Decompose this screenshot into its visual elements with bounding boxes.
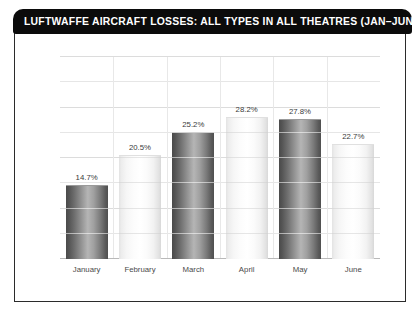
bar-gridline-minor xyxy=(226,132,268,133)
bar-value-label: 27.8% xyxy=(289,107,311,116)
bar-value-label: 14.7% xyxy=(76,173,98,182)
gridline-vertical xyxy=(113,57,114,259)
bar-gridline-minor xyxy=(172,233,214,234)
bar-gridline-minor xyxy=(172,182,214,183)
bar-gridline xyxy=(172,157,214,158)
bar-gridline-minor xyxy=(332,233,374,234)
bar-gridline-minor xyxy=(119,182,161,183)
bar-gridline-minor xyxy=(279,132,321,133)
bar: 27.8%May xyxy=(279,119,321,259)
bar-gridline-minor xyxy=(119,233,161,234)
bar-gridline-minor xyxy=(226,182,268,183)
x-axis-category-label: June xyxy=(345,265,362,274)
x-axis-category-label: February xyxy=(124,265,155,274)
bar: 25.2%March xyxy=(172,132,214,259)
bar-value-label: 28.2% xyxy=(236,105,258,114)
x-axis-category-label: May xyxy=(293,265,308,274)
bar-value-label: 20.5% xyxy=(129,143,151,152)
bar-gridline-minor xyxy=(332,182,374,183)
bar-gridline-minor xyxy=(66,233,108,234)
bar: 22.7%June xyxy=(332,144,374,259)
bar: 14.7%January xyxy=(66,185,108,259)
bar-gridline xyxy=(279,157,321,158)
bar-gridline xyxy=(332,208,374,209)
bar-gridline xyxy=(332,157,374,158)
bar-gridline-minor xyxy=(279,182,321,183)
bar-gridline xyxy=(119,157,161,158)
x-axis-category-label: April xyxy=(239,265,255,274)
bar-gridline xyxy=(279,208,321,209)
gridline-vertical xyxy=(327,57,328,259)
bar: 20.5%February xyxy=(119,155,161,259)
bar-gridline xyxy=(226,208,268,209)
gridline-vertical xyxy=(167,57,168,259)
gridline-vertical xyxy=(273,57,274,259)
x-axis-category-label: January xyxy=(73,265,101,274)
bar-gridline-minor xyxy=(279,233,321,234)
bar-value-label: 22.7% xyxy=(342,132,364,141)
bar-gridline-minor xyxy=(172,132,214,133)
bar-gridline xyxy=(66,208,108,209)
bar-gridline xyxy=(226,157,268,158)
bar-gridline xyxy=(172,208,214,209)
chart-title-bar: LUFTWAFFE AIRCRAFT LOSSES: ALL TYPES IN … xyxy=(13,9,412,34)
page-title: LUFTWAFFE AIRCRAFT LOSSES: ALL TYPES IN … xyxy=(13,16,412,27)
bar-gridline xyxy=(119,208,161,209)
x-axis-category-label: March xyxy=(182,265,204,274)
chart-screenshot: LUFTWAFFE AIRCRAFT LOSSES: ALL TYPES IN … xyxy=(0,0,420,325)
bar-value-label: 25.2% xyxy=(182,120,204,129)
gridline-vertical xyxy=(220,57,221,259)
bar-gridline-minor xyxy=(226,233,268,234)
bar: 28.2%April xyxy=(226,117,268,259)
plot-area: 0%10%20%30%40% 14.7%January20.5%February… xyxy=(60,57,380,259)
